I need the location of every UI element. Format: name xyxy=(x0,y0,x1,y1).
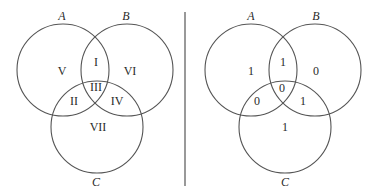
set-label-b: B xyxy=(312,9,320,23)
region-b-only: 0 xyxy=(313,64,319,78)
region-a-and-b: 1 xyxy=(280,55,286,69)
region-b-and-c: 1 xyxy=(300,94,306,108)
set-label-c: C xyxy=(92,175,101,189)
region-b-only: VI xyxy=(124,64,137,78)
region-c-only: 1 xyxy=(282,120,288,134)
region-a-and-c: 0 xyxy=(254,94,260,108)
set-label-a: A xyxy=(246,9,255,23)
set-label-a: A xyxy=(57,9,66,23)
region-c-only: VII xyxy=(90,120,107,134)
region-a-b-c: 0 xyxy=(279,81,285,95)
set-label-b: B xyxy=(122,9,130,23)
region-a-only: V xyxy=(58,64,67,78)
left-venn-diagram: A B C V I VI III II IV VII xyxy=(17,9,173,189)
set-label-c: C xyxy=(281,175,290,189)
region-b-and-c: IV xyxy=(111,94,124,108)
region-a-only: 1 xyxy=(248,64,254,78)
venn-diagrams-canvas: A B C V I VI III II IV VII A B C 1 1 0 0… xyxy=(0,0,377,196)
right-venn-diagram: A B C 1 1 0 0 0 1 1 xyxy=(205,9,361,189)
region-a-and-b: I xyxy=(94,55,98,69)
region-a-and-c: II xyxy=(70,94,78,108)
region-a-b-c: III xyxy=(90,80,102,94)
